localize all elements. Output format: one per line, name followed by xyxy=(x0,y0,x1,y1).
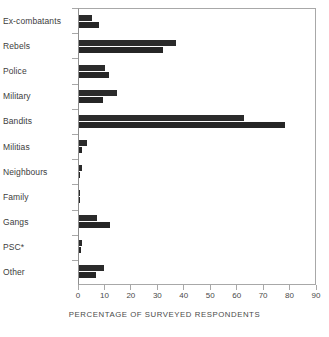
category-label: Police xyxy=(0,58,72,83)
bar-group xyxy=(79,134,315,159)
x-axis-ticks xyxy=(78,285,316,290)
bar xyxy=(79,265,104,271)
bar xyxy=(79,15,92,21)
bar-group xyxy=(79,159,315,184)
bar-group xyxy=(79,59,315,84)
x-tick xyxy=(104,285,105,290)
bar-group xyxy=(79,109,315,134)
x-tick xyxy=(183,285,184,290)
x-tick xyxy=(210,285,211,290)
bar xyxy=(79,272,96,278)
category-label: Other xyxy=(0,260,72,285)
bar xyxy=(79,215,97,221)
x-tick xyxy=(130,285,131,290)
category-label: Rebels xyxy=(0,33,72,58)
x-tick-label: 0 xyxy=(76,291,80,300)
bar-rows xyxy=(79,9,315,284)
bar xyxy=(79,172,80,178)
bar xyxy=(79,190,80,196)
category-label: Family xyxy=(0,184,72,209)
category-axis-labels: Ex-combatantsRebelsPoliceMilitaryBandits… xyxy=(0,8,72,285)
bar xyxy=(79,222,110,228)
bar xyxy=(79,165,82,171)
x-tick-label: 30 xyxy=(153,291,162,300)
x-tick xyxy=(78,285,79,290)
bar-group xyxy=(79,184,315,209)
bar xyxy=(79,197,80,203)
bar xyxy=(79,247,81,253)
bar xyxy=(79,72,109,78)
x-tick-label: 90 xyxy=(312,291,321,300)
x-tick-label: 20 xyxy=(126,291,135,300)
x-tick xyxy=(316,285,317,290)
bar-group xyxy=(79,84,315,109)
x-tick xyxy=(289,285,290,290)
category-label: Gangs xyxy=(0,210,72,235)
x-axis-title: PERCENTAGE OF SURVEYED RESPONDENTS xyxy=(0,310,329,319)
bar xyxy=(79,90,117,96)
bar xyxy=(79,47,163,53)
bar-group xyxy=(79,259,315,284)
bar-chart-figure: Ex-combatantsRebelsPoliceMilitaryBandits… xyxy=(0,0,329,337)
category-label: Neighbours xyxy=(0,159,72,184)
x-tick-label: 50 xyxy=(206,291,215,300)
bar-group xyxy=(79,209,315,234)
x-tick-label: 60 xyxy=(232,291,241,300)
bar xyxy=(79,40,176,46)
bar xyxy=(79,115,244,121)
x-tick-label: 10 xyxy=(100,291,109,300)
x-tick xyxy=(157,285,158,290)
bar xyxy=(79,140,87,146)
bar xyxy=(79,97,103,103)
bar xyxy=(79,147,82,153)
category-label: Ex-combatants xyxy=(0,8,72,33)
x-tick-label: 70 xyxy=(259,291,268,300)
x-tick-label: 80 xyxy=(285,291,294,300)
bar xyxy=(79,122,285,128)
plot-area xyxy=(78,8,316,285)
bar-group xyxy=(79,34,315,59)
category-label: Military xyxy=(0,84,72,109)
x-tick-label: 40 xyxy=(179,291,188,300)
x-axis-tick-labels: 0102030405060708090 xyxy=(78,291,316,303)
bar xyxy=(79,240,82,246)
bar xyxy=(79,22,99,28)
category-label: Militias xyxy=(0,134,72,159)
x-tick xyxy=(236,285,237,290)
category-label: PSC* xyxy=(0,235,72,260)
bar-group xyxy=(79,234,315,259)
category-label: Bandits xyxy=(0,109,72,134)
x-tick xyxy=(263,285,264,290)
bar-group xyxy=(79,9,315,34)
bar xyxy=(79,65,105,71)
